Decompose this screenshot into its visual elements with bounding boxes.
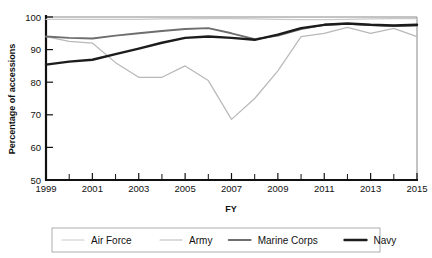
y-tick-label: 70 <box>30 109 41 120</box>
legend-label-navy: Navy <box>374 235 397 246</box>
chart-legend: Air ForceArmyMarine CorpsNavy <box>52 228 396 252</box>
x-tick-label: 2015 <box>406 183 427 194</box>
x-tick-label: 2009 <box>267 183 288 194</box>
x-tick-label: 2003 <box>128 183 149 194</box>
legend-label-marine-corps: Marine Corps <box>258 235 318 246</box>
y-tick-label: 60 <box>30 142 41 153</box>
legend-label-air-force: Air Force <box>91 235 132 246</box>
x-tick-label: 2001 <box>82 183 103 194</box>
x-tick-label: 2005 <box>175 183 196 194</box>
y-tick-label: 80 <box>30 77 41 88</box>
y-tick-label: 90 <box>30 44 41 55</box>
x-tick-label: 2011 <box>314 183 334 194</box>
x-axis-title: FY <box>225 204 237 214</box>
legend-label-army: Army <box>189 235 212 246</box>
y-tick-label: 100 <box>25 12 41 23</box>
accessions-line-chart: 5060708090100 Percentage of accessions 1… <box>0 0 432 258</box>
figure-background <box>0 0 432 258</box>
x-tick-label: 2013 <box>360 183 381 194</box>
x-tick-label: 1999 <box>35 183 56 194</box>
y-axis-title: Percentage of accessions <box>7 44 17 155</box>
x-tick-label: 2007 <box>221 183 242 194</box>
chart-figure: 5060708090100 Percentage of accessions 1… <box>0 0 432 258</box>
